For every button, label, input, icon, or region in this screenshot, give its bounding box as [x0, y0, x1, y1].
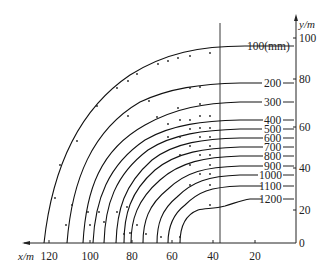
contour-label-1100: 1100 [259, 180, 282, 192]
x-tick-100: 100 [81, 250, 99, 262]
x-tick-20: 20 [249, 250, 261, 262]
y-tick-20: 20 [299, 204, 311, 216]
x-axis-arrow-icon [22, 241, 30, 245]
x-tick-120: 120 [40, 250, 58, 262]
contour-900 [143, 166, 263, 243]
contour-leaders [283, 46, 294, 199]
y-tick-100: 100 [299, 32, 317, 44]
x-tick-labels: 120 100 80 60 40 20 [40, 250, 261, 262]
contour-600 [116, 138, 263, 243]
y-axis [293, 18, 296, 243]
data-points [54, 52, 211, 238]
y-tick-0: 0 [299, 237, 305, 249]
y-axis-label: y/m [298, 18, 315, 30]
contour-label-100: 100(mm) [247, 40, 290, 53]
contour-1200 [180, 199, 262, 243]
contour-lines [44, 46, 285, 243]
contour-chart: 100(mm) 200 300 400 500 600 700 800 900 … [0, 0, 332, 274]
contour-label-300: 300 [264, 96, 282, 108]
contour-label-1200: 1200 [259, 193, 282, 205]
contour-100 [44, 46, 285, 243]
contour-1100 [168, 186, 262, 243]
y-axis-arrow-icon [294, 14, 298, 21]
x-tick-40: 40 [207, 250, 219, 262]
x-axis-label: x/m [17, 250, 34, 262]
contour-label-200: 200 [264, 77, 282, 89]
y-tick-60: 60 [299, 121, 311, 133]
y-tick-40: 40 [299, 162, 311, 174]
y-tick-80: 80 [299, 73, 311, 85]
x-tick-60: 60 [166, 250, 178, 262]
contour-labels: 100(mm) 200 300 400 500 600 700 800 900 … [247, 40, 290, 205]
contour-800 [131, 156, 263, 243]
x-tick-80: 80 [126, 250, 138, 262]
x-axis [24, 240, 296, 243]
contour-300 [83, 102, 262, 243]
y-tick-labels: 100 80 60 40 20 0 [299, 32, 317, 249]
